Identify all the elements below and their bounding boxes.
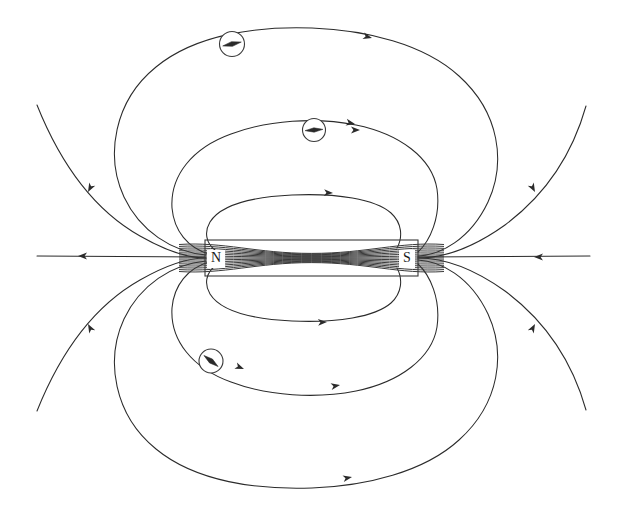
arrow-lower-right-outer [528, 322, 538, 333]
arrow-lower-left-outer [85, 322, 95, 333]
fieldline-upper-outer-loop [115, 28, 498, 256]
compass-top-outer[interactable] [220, 32, 245, 57]
arrow-axis-right [534, 254, 543, 261]
fieldline-upper-1 [37, 105, 206, 258]
fieldline-lower-outer-loop [115, 260, 498, 488]
arrow-upper-right-outer [528, 182, 538, 193]
arrow-lower-inner-bot [318, 319, 327, 326]
fieldline-lower-1b [418, 258, 586, 410]
fieldline-upper-1b [418, 106, 586, 258]
arrow-upper-compass [351, 127, 360, 134]
fieldline-upper-inner-loop [207, 195, 401, 250]
compass-bottom[interactable] [199, 349, 223, 373]
arrow-lower-mid-bot [331, 382, 341, 390]
arrow-lower-outer-bot [343, 474, 353, 482]
arrow-upper-left-outer [85, 182, 95, 193]
fieldline-lower-mid-loop [172, 262, 438, 395]
fieldline-lower-1 [37, 258, 206, 411]
arrow-lower-compass [234, 362, 245, 372]
south-pole-label: S [403, 250, 411, 265]
fieldline-lower-inner-loop [207, 266, 401, 321]
field-diagram-canvas: Magnetic field lines of a bar magnet N S [0, 0, 621, 510]
north-pole-label: N [211, 250, 221, 265]
compass-top-inner[interactable] [303, 119, 326, 142]
fieldline-upper-mid-loop [172, 121, 438, 254]
magnetic-field-figure: Magnetic field lines of a bar magnet N S [0, 0, 621, 510]
